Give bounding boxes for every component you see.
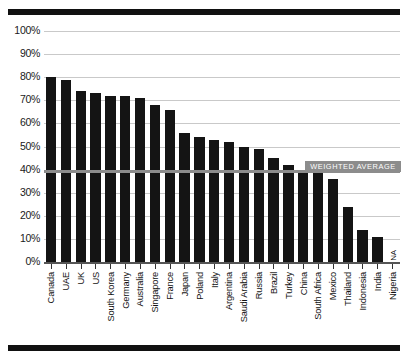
x-axis-tick-mark [140,264,141,269]
x-axis-tick-mark [273,264,274,269]
x-axis-label-slot: US [89,264,104,354]
y-axis-tick-label: 30% [4,186,40,198]
x-axis-tick-label: Brazil [269,272,279,294]
bar [120,96,130,262]
bar [357,230,367,262]
x-axis-tick-label: Canada [46,272,56,303]
bar-slot [103,31,118,262]
bar-slot [74,31,89,262]
x-axis-label-slot: Indonesia [356,264,371,354]
x-axis-tick-mark [95,264,96,269]
x-axis-tick-label: Poland [195,272,205,300]
x-axis-tick-label: South Africa [313,272,323,320]
y-axis-tick-label: 40% [4,163,40,175]
x-axis-label-slot: Poland [192,264,207,354]
x-axis-label-slot: Germany [118,264,133,354]
bar [105,96,115,262]
x-axis-tick-label: France [165,272,175,300]
x-axis-label-slot: South Korea [103,264,118,354]
x-axis-tick-mark [184,264,185,269]
bar [313,170,323,262]
x-axis-tick-mark [333,264,334,269]
bar-slot [267,31,282,262]
bars-group [44,31,400,262]
x-axis-label-slot: NigeriaNA [385,264,400,354]
bar-slot [178,31,193,262]
x-axis-label-slot: Saudi Arabia [237,264,252,354]
x-axis-tick-label: Mexico [328,272,338,300]
bar [239,147,249,263]
x-axis-label-slot: Russia [252,264,267,354]
x-axis-label-slot: Singapore [148,264,163,354]
x-axis-label-slot: China [296,264,311,354]
bar-slot [207,31,222,262]
bar-na-label: NA [388,250,397,261]
x-axis-tick-label: Italy [210,272,220,288]
x-axis-tick-mark [110,264,111,269]
x-axis-labels-group: CanadaUAEUKUSSouth KoreaGermanyAustralia… [44,264,400,354]
x-axis-label-slot: Mexico [326,264,341,354]
bar [343,207,353,262]
bar [372,237,382,262]
bar-slot [370,31,385,262]
x-axis-tick-label: Russia [254,272,264,299]
x-axis-label-slot: UAE [59,264,74,354]
top-rule-divider [8,9,400,15]
x-axis-tick-mark [318,264,319,269]
x-axis-tick-label: Saudi Arabia [239,272,249,322]
bar [283,165,293,262]
x-axis-tick-mark [259,264,260,269]
x-axis-tick-label: Australia [135,272,145,306]
x-axis-tick-label: US [91,272,101,285]
x-axis-tick-label: Germany [121,272,131,309]
x-axis-tick-mark [303,264,304,269]
y-axis-tick-label: 80% [4,70,40,82]
x-axis-tick-mark [362,264,363,269]
bar-slot [296,31,311,262]
bar-slot [44,31,59,262]
bar [254,149,264,262]
bar-slot [252,31,267,262]
bar-slot [192,31,207,262]
x-axis-label-slot: Brazil [267,264,282,354]
bar [76,91,86,262]
x-axis-tick-mark [244,264,245,269]
bar-slot [163,31,178,262]
bar [165,110,175,262]
y-axis-tick-label: 100% [4,24,40,36]
bar [194,137,204,262]
bar [150,105,160,262]
y-axis-tick-label: 90% [4,47,40,59]
x-axis-tick-mark [81,264,82,269]
bar-slot [237,31,252,262]
y-axis-tick-label: 60% [4,116,40,128]
bar [135,98,145,262]
y-axis-tick-label: 50% [4,140,40,152]
x-axis-tick-label: Thailand [343,272,353,306]
bar-slot [326,31,341,262]
x-axis-label-slot: Japan [178,264,193,354]
x-axis-tick-mark [214,264,215,269]
chart-container: 100%90%80%70%60%50%40%30%20%10%0% WEIGHT… [0,0,408,358]
bar-slot [281,31,296,262]
x-axis-label-slot: France [163,264,178,354]
x-axis-label-slot: Canada [44,264,59,354]
bar [90,93,100,262]
x-axis-tick-mark [392,264,393,269]
bottom-rule-divider [8,345,400,351]
x-axis-label-slot: Australia [133,264,148,354]
x-axis-tick-mark [348,264,349,269]
bar [268,158,278,262]
bar-slot [133,31,148,262]
x-axis-tick-mark [377,264,378,269]
x-axis-label-slot: Italy [207,264,222,354]
bar [209,140,219,262]
y-axis-tick-label: 20% [4,209,40,221]
weighted-average-label: WEIGHTED AVERAGE [305,161,401,172]
x-axis-label-slot: Turkey [281,264,296,354]
x-axis-label-slot: UK [74,264,89,354]
y-axis-tick-label: 0% [4,255,40,267]
x-axis-label-slot: South Africa [311,264,326,354]
bar-slot [341,31,356,262]
bar-slot [356,31,371,262]
